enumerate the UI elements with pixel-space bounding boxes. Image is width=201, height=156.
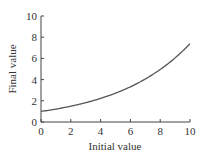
- line-chart: 0246810 0246810 Initial value Final valu…: [0, 0, 201, 156]
- y-tick-label: 4: [32, 74, 38, 86]
- y-tick-label: 2: [32, 95, 38, 107]
- y-tick-label: 0: [32, 116, 38, 128]
- x-tick-label: 10: [185, 125, 197, 137]
- x-tick-label: 8: [157, 125, 163, 137]
- y-axis-label: Final value: [6, 44, 18, 93]
- y-tick-label: 6: [32, 52, 38, 64]
- x-tick-label: 2: [68, 125, 74, 137]
- data-line: [41, 44, 190, 112]
- x-axis-label: Initial value: [89, 140, 142, 152]
- axes: [41, 16, 190, 122]
- x-tick-label: 4: [98, 125, 104, 137]
- y-tick-label: 10: [26, 10, 38, 22]
- y-tick-label: 8: [32, 31, 38, 43]
- x-tick-label: 0: [38, 125, 44, 137]
- x-tick-label: 6: [128, 125, 134, 137]
